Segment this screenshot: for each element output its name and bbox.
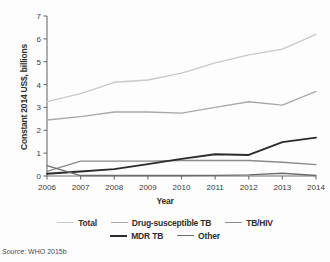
- chart-legend: TotalDrug-susceptible TBTB/HIV MDR TBOth…: [0, 216, 330, 242]
- series-line-mdr-tb: [47, 138, 316, 174]
- y-tick-label: 2: [37, 126, 42, 135]
- legend-line-swatch: [225, 222, 242, 223]
- y-tick-label: 1: [37, 149, 42, 158]
- chart-plot-area: 0123456720062007200820092010201120122013…: [0, 0, 330, 210]
- legend-label: Other: [198, 231, 220, 241]
- legend-entry-mdr-tb[interactable]: MDR TB: [110, 231, 163, 241]
- y-axis-title: Constant 2014 US$, billions: [19, 17, 29, 177]
- x-tick-label: 2013: [273, 183, 291, 192]
- axis-lines: [47, 16, 316, 176]
- y-tick-label: 3: [37, 103, 42, 112]
- legend-entry-total[interactable]: Total: [57, 218, 97, 228]
- source-prefix: Source:: [2, 248, 26, 255]
- legend-line-swatch: [111, 222, 128, 223]
- x-tick-label: 2011: [207, 183, 225, 192]
- figure-container: 0123456720062007200820092010201120122013…: [0, 0, 330, 262]
- legend-line-swatch: [177, 235, 194, 236]
- x-tick-label: 2012: [240, 183, 258, 192]
- series-line-drug-susceptible-tb: [47, 91, 316, 120]
- source-note: Source: WHO 2015b: [2, 248, 67, 255]
- legend-line-swatch: [57, 222, 74, 223]
- x-tick-label: 2009: [139, 183, 157, 192]
- series-line-tb-hiv: [47, 160, 316, 171]
- x-tick-label: 2014: [307, 183, 325, 192]
- source-text: WHO 2015b: [28, 248, 67, 255]
- legend-row-primary: TotalDrug-susceptible TBTB/HIV: [0, 216, 330, 229]
- series-line-total: [47, 34, 316, 101]
- legend-label: TB/HIV: [246, 218, 273, 228]
- legend-entry-drug-susceptible-tb[interactable]: Drug-susceptible TB: [111, 218, 211, 228]
- legend-label: Total: [78, 218, 97, 228]
- legend-row-secondary: MDR TBOther: [0, 229, 330, 242]
- x-tick-label: 2007: [72, 183, 90, 192]
- y-tick-label: 4: [37, 81, 42, 90]
- y-tick-label: 5: [37, 58, 42, 67]
- legend-line-swatch: [110, 235, 127, 237]
- legend-label: Drug-susceptible TB: [132, 218, 211, 228]
- x-tick-label: 2008: [105, 183, 123, 192]
- x-tick-label: 2006: [38, 183, 56, 192]
- y-tick-label: 7: [37, 12, 42, 21]
- y-tick-label: 6: [37, 35, 42, 44]
- y-tick-label: 0: [37, 172, 42, 181]
- x-tick-label: 2010: [173, 183, 191, 192]
- x-axis-title: Year: [0, 196, 330, 206]
- legend-entry-tb-hiv[interactable]: TB/HIV: [225, 218, 273, 228]
- line-chart: 0123456720062007200820092010201120122013…: [0, 0, 330, 210]
- legend-label: MDR TB: [131, 231, 163, 241]
- legend-entry-other[interactable]: Other: [177, 231, 220, 241]
